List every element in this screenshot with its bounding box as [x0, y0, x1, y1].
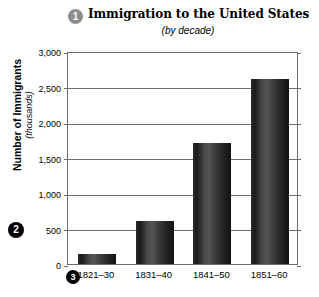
y-axis-tick: [64, 195, 68, 196]
y-axis-title-main: Number of Immigrants: [11, 35, 23, 195]
y-axis-tick: [64, 230, 68, 231]
y-axis-tick: [64, 266, 68, 267]
plot-area: 05001,0001,5002,0002,5003,000: [67, 52, 298, 265]
y-axis-tick-right: [297, 159, 301, 160]
y-axis-tick: [64, 124, 68, 125]
x-axis-tick-label: 1821–30: [67, 269, 125, 280]
y-axis-tick-label: 500: [46, 226, 61, 236]
x-axis-tick-label: 1841–50: [183, 269, 241, 280]
y-axis-tick-label: 2,000: [38, 119, 61, 129]
y-axis-title: Number of Immigrants (thousands): [11, 35, 41, 195]
bar: [136, 221, 174, 264]
annotation-marker-2: 2: [8, 222, 24, 238]
immigration-bar-chart: 1 Immigration to the United States (by d…: [0, 0, 319, 297]
y-axis-tick-label: 0: [56, 261, 61, 271]
y-axis-tick-right: [297, 266, 301, 267]
bar: [193, 143, 231, 264]
y-axis-tick: [64, 88, 68, 89]
x-axis-tick-label: 1851–60: [240, 269, 298, 280]
y-axis-tick-label: 3,000: [38, 48, 61, 58]
y-axis-tick-label: 1,500: [38, 155, 61, 165]
y-axis-title-units: (thousands): [24, 35, 34, 195]
chart-subtitle: (by decade): [88, 25, 288, 36]
y-axis-tick-right: [297, 230, 301, 231]
y-axis-tick-right: [297, 124, 301, 125]
bar: [251, 79, 289, 264]
chart-title: Immigration to the United States: [88, 7, 288, 21]
y-axis-tick-label: 2,500: [38, 84, 61, 94]
y-axis-tick-right: [297, 53, 301, 54]
y-axis-tick: [64, 159, 68, 160]
y-axis-tick-right: [297, 195, 301, 196]
bar: [78, 254, 116, 264]
y-axis-tick: [64, 53, 68, 54]
y-axis-tick-label: 1,000: [38, 190, 61, 200]
annotation-marker-1: 1: [68, 9, 83, 24]
y-axis-tick-right: [297, 88, 301, 89]
x-axis-tick-label: 1831–40: [125, 269, 183, 280]
